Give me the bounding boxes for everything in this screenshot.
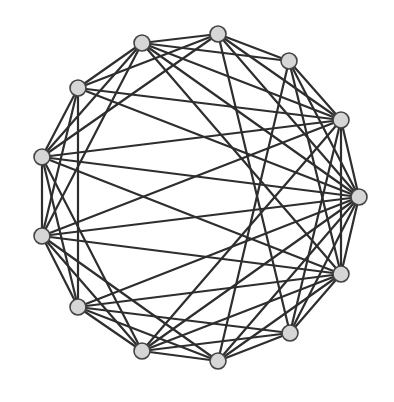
graph-edge: [142, 120, 341, 351]
graph-node: [134, 343, 150, 359]
graph-edges: [42, 34, 359, 361]
graph-edge: [142, 43, 341, 274]
graph-edge: [78, 43, 142, 88]
circular-graph-diagram: [0, 0, 394, 402]
graph-node: [70, 299, 86, 315]
graph-node: [210, 353, 226, 369]
graph-nodes: [34, 26, 367, 369]
graph-node: [281, 53, 297, 69]
graph-node: [34, 228, 50, 244]
graph-node: [134, 35, 150, 51]
graph-node: [351, 189, 367, 205]
graph-edge: [42, 157, 341, 274]
graph-node: [210, 26, 226, 42]
graph-node: [333, 112, 349, 128]
graph-node: [70, 80, 86, 96]
graph-node: [333, 266, 349, 282]
graph-node: [282, 325, 298, 341]
graph-node: [34, 149, 50, 165]
